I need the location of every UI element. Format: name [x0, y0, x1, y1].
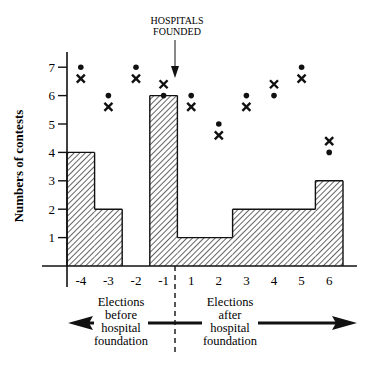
svg-text:after: after — [219, 308, 243, 322]
x-tick-label: 1 — [188, 273, 195, 288]
x-tick-label: 4 — [271, 273, 278, 288]
dot-marker — [271, 93, 277, 99]
arrow-down-icon — [171, 66, 179, 78]
dot-marker — [244, 93, 250, 99]
before-caption: Elections before hospital foundation — [94, 295, 149, 348]
scatter-markers — [77, 64, 333, 155]
svg-text:foundation: foundation — [203, 334, 258, 348]
x-marker — [104, 103, 112, 111]
bar-2 — [205, 238, 233, 266]
x-tick-label: 6 — [326, 273, 333, 288]
x-marker — [325, 137, 333, 145]
x-marker — [160, 80, 168, 88]
y-tick-label: 4 — [49, 145, 56, 160]
x-ticks: -4-3-2-1123456 — [75, 273, 333, 288]
x-marker — [77, 75, 85, 83]
svg-text:Elections: Elections — [98, 295, 145, 309]
x-tick-label: -4 — [75, 273, 86, 288]
dot-marker — [188, 93, 194, 99]
bar--4 — [67, 152, 95, 266]
chart-canvas: 1234567 -4-3-2-1123456 Numbers of contes… — [0, 0, 389, 367]
dot-marker — [78, 64, 84, 70]
svg-text:foundation: foundation — [94, 334, 149, 348]
x-tick-label: -2 — [131, 273, 142, 288]
x-marker — [270, 80, 278, 88]
histogram-bars — [67, 96, 343, 266]
x-tick-label: -1 — [158, 273, 169, 288]
bar-3 — [233, 209, 261, 266]
y-tick-label: 7 — [49, 60, 56, 75]
bar--3 — [95, 209, 123, 266]
y-tick-label: 1 — [49, 230, 56, 245]
svg-text:hospital: hospital — [210, 321, 250, 335]
y-tick-label: 2 — [49, 202, 56, 217]
y-tick-label: 6 — [49, 88, 56, 103]
y-ticks: 1234567 — [49, 60, 68, 245]
x-tick-label: 2 — [216, 273, 223, 288]
hospitals-founded-line1: HOSPITALS — [150, 15, 203, 26]
x-tick-label: -3 — [103, 273, 114, 288]
bar-1 — [177, 238, 205, 266]
bar-5 — [288, 209, 316, 266]
x-tick-label: 5 — [298, 273, 305, 288]
svg-text:hospital: hospital — [101, 321, 141, 335]
dot-marker — [161, 93, 167, 99]
bar-6 — [315, 181, 343, 266]
bar-4 — [260, 209, 288, 266]
x-marker — [187, 103, 195, 111]
dot-marker — [106, 93, 112, 99]
x-marker — [242, 103, 250, 111]
dot-marker — [326, 150, 332, 156]
x-tick-label: 3 — [243, 273, 250, 288]
svg-text:Elections: Elections — [207, 295, 254, 309]
hospitals-founded-line2: FOUNDED — [153, 26, 201, 37]
dot-marker — [299, 64, 305, 70]
bar--1 — [150, 96, 178, 266]
svg-text:before: before — [105, 308, 137, 322]
x-marker — [215, 131, 223, 139]
dot-marker — [216, 121, 222, 127]
y-axis-label: Numbers of contests — [11, 110, 26, 223]
after-caption: Elections after hospital foundation — [203, 295, 258, 348]
x-marker — [298, 75, 306, 83]
x-marker — [132, 75, 140, 83]
dot-marker — [133, 64, 139, 70]
y-tick-label: 5 — [49, 117, 56, 132]
y-tick-label: 3 — [49, 173, 56, 188]
